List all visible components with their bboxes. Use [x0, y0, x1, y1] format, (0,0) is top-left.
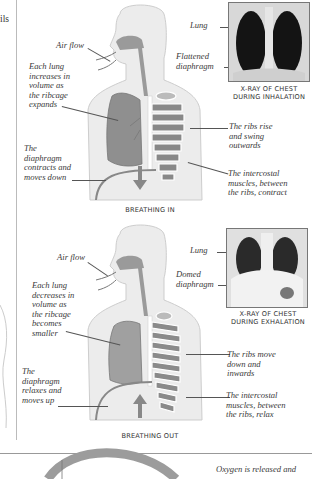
label-line: inwards: [227, 369, 276, 379]
caption-line: DURING INHALATION: [226, 93, 312, 101]
diaphragm-contracts-label: The diaphragm contracts and moves down: [24, 144, 71, 182]
leader-line: [58, 406, 108, 407]
xray-lung-label: Lung: [190, 246, 208, 256]
label-line: outwards: [229, 141, 272, 151]
leader-line: [186, 397, 230, 398]
xray-exhalation-caption: X-RAY OF CHEST DURING EXHALATION: [224, 310, 312, 326]
intercostal-relax-label: The intercostal muscles, between the rib…: [226, 391, 286, 420]
intercostal-contract-label: The intercostal muscles, between the rib…: [228, 169, 288, 198]
breathing-in-torso-illustration: [60, 0, 220, 210]
label-line: the ribs, contract: [228, 188, 288, 198]
oxygen-released-text: Oxygen is released and: [216, 465, 296, 475]
label-line: moves up: [22, 396, 62, 406]
air-flow-label: Air flow: [57, 253, 85, 263]
caption-line: X-RAY OF CHEST: [226, 85, 312, 93]
xray-flattened-diaphragm-label: Flattened diaphragm: [176, 52, 214, 71]
column-divider: [16, 0, 17, 440]
breathing-out-caption: BREATHING OUT: [100, 432, 200, 440]
label-line: diaphragm: [176, 280, 214, 290]
fragment-line: ils: [0, 14, 9, 25]
ribs-rise-label: The ribs rise and swing outwards: [229, 122, 272, 151]
leader-line: [190, 128, 228, 129]
label-line: the ribs, relax: [226, 410, 286, 420]
label-line: smaller: [32, 329, 74, 339]
air-flow-label: Air flow: [56, 41, 84, 51]
label-line: expands: [29, 100, 70, 110]
xray-inhalation-image: [228, 2, 310, 82]
xray-exhalation-image: [226, 228, 308, 308]
label-line: moves down: [24, 173, 71, 183]
page-edge-illustration: [0, 300, 16, 440]
lung-volume-label: Each lung decreases in volume as the rib…: [32, 281, 74, 339]
alveolus-ring-illustration: [40, 448, 190, 479]
breathing-in-caption: BREATHING IN: [100, 206, 200, 214]
ribs-move-down-label: The ribs move down and inwards: [227, 350, 276, 379]
xray-lung-label: Lung: [190, 21, 208, 31]
xray-domed-diaphragm-label: Domed diaphragm: [176, 270, 214, 289]
margin-text-fragment: ils: [0, 14, 9, 25]
diaphragm-relaxes-label: The diaphragm relaxes and moves up: [22, 367, 62, 405]
caption-line: DURING EXHALATION: [224, 318, 312, 326]
lung-volume-label: Each lung increases in volume as the rib…: [29, 62, 70, 110]
leader-line: [72, 180, 106, 181]
label-line: diaphragm: [176, 62, 214, 72]
caption-line: X-RAY OF CHEST: [224, 310, 312, 318]
xray-inhalation-caption: X-RAY OF CHEST DURING INHALATION: [226, 85, 312, 101]
leader-line: [186, 354, 230, 355]
